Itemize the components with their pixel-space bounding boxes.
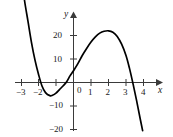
y-tick-label-neg20: −20	[49, 125, 63, 134]
chart-canvas	[0, 0, 173, 137]
y-axis-label: y	[64, 10, 68, 20]
x-tick-label-1: 1	[88, 88, 93, 97]
x-tick-label-3: 3	[123, 88, 128, 97]
y-tick-label-neg10: −10	[49, 101, 63, 110]
cubic-function-graph: −3 −2 0 1 2 3 4 20 10 −10 −20 y x	[0, 0, 173, 137]
x-tick-label-neg3: −3	[16, 88, 26, 97]
x-tick-label-neg2: −2	[33, 88, 43, 97]
x-tick-label-4: 4	[141, 88, 146, 97]
x-axis-label: x	[158, 86, 162, 96]
origin-label: 0	[77, 86, 82, 95]
y-axis-arrow	[70, 12, 77, 19]
y-tick-label-10: 10	[53, 55, 62, 64]
cubic-curve	[22, 0, 143, 131]
x-tick-label-2: 2	[106, 88, 111, 97]
y-tick-label-20: 20	[53, 31, 62, 40]
